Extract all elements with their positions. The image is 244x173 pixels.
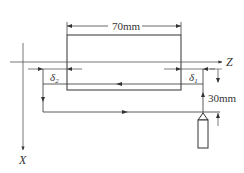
length-dimension: 70mm [67,20,181,35]
retract-label: 30mm [208,92,237,104]
z-axis-label: Z [226,55,233,69]
retract-dimension: 30mm [208,69,237,126]
workpiece [67,35,181,90]
delta1-dimension: δ1 [164,67,215,85]
z-axis: Z [10,55,233,69]
x-axis-label: X [18,153,27,167]
cutting-tool [198,113,208,148]
length-label: 70mm [112,20,141,32]
delta2-dimension: δ2 [28,67,82,85]
toolpath-diagram: 70mm Z X δ2 δ1 [0,0,244,173]
delta2-label: δ2 [50,71,59,85]
delta1-label: δ1 [189,71,198,85]
